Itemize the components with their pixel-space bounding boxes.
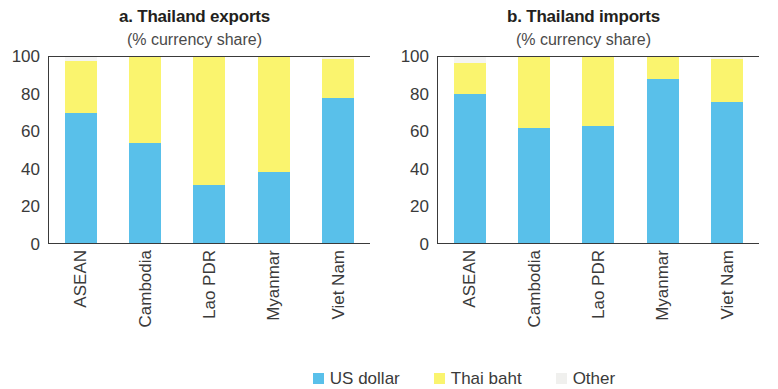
bar-segment-us-dollar [258,172,290,243]
x-axis-tick-slot: Viet Nam [696,246,757,351]
bar-segment-thai-baht [129,57,161,143]
bar-segment-us-dollar [454,94,486,243]
bar-group [115,57,176,243]
y-axis-tick: 100 [401,48,429,65]
x-axis-tick-slot: Lao PDR [178,246,239,351]
bar-segment-us-dollar [711,102,743,243]
bar-group [307,57,368,243]
y-axis-tick: 20 [410,198,429,215]
y-axis-tick: 40 [21,160,40,177]
x-axis-tick-label: Myanmar [265,250,282,321]
legend-label: Other [573,370,616,387]
legend-label: US dollar [330,370,400,387]
x-axis-tick-slot: Viet Nam [307,246,368,351]
stacked-bar[interactable] [322,57,354,243]
bar-segment-thai-baht [193,57,225,185]
bar-segment-thai-baht [258,57,290,172]
panel-exports-y-axis: 100806040200 [0,56,46,244]
bar-segment-us-dollar [65,113,97,243]
legend-item[interactable]: Other [556,370,616,387]
legend-label: Thai baht [451,370,522,387]
y-axis-tick: 0 [31,236,40,253]
bar-segment-thai-baht [518,57,550,128]
panel-exports-plot: 100806040200 ASEANCambodiaLao PDRMyanmar… [0,56,389,356]
bar-segment-thai-baht [322,59,354,98]
legend-item[interactable]: US dollar [313,370,400,387]
bar-segment-us-dollar [322,98,354,243]
y-axis-tick: 40 [410,160,429,177]
panel-exports: a. Thailand exports (% currency share) 1… [0,0,389,352]
bar-group [51,57,112,243]
legend-swatch-icon [556,373,567,384]
panel-imports-plot: 100806040200 ASEANCambodiaLao PDRMyanmar… [389,56,778,356]
x-axis-tick-label: Lao PDR [589,250,606,319]
panel-imports: b. Thailand imports (% currency share) 1… [389,0,778,352]
x-axis-tick-label: Viet Nam [718,250,735,320]
panel-imports-x-axis: ASEANCambodiaLao PDRMyanmarViet Nam [437,246,759,351]
x-axis-tick-label: Cambodia [525,250,542,328]
x-axis-tick-label: Myanmar [654,250,671,321]
bar-segment-thai-baht [582,57,614,126]
legend-swatch-icon [313,373,324,384]
bar-segment-thai-baht [647,57,679,79]
legend-swatch-icon [434,373,445,384]
x-axis-tick-slot: Myanmar [243,246,304,351]
y-axis-tick: 60 [410,123,429,140]
stacked-bar[interactable] [518,57,550,243]
x-axis-tick-label: Cambodia [136,250,153,328]
x-axis-tick-slot: Myanmar [632,246,693,351]
x-axis-tick-slot: Cambodia [114,246,175,351]
stacked-bar[interactable] [193,57,225,243]
stacked-bar[interactable] [711,57,743,243]
panel-exports-title: a. Thailand exports [0,0,389,28]
panel-imports-title: b. Thailand imports [389,0,778,28]
panel-imports-y-axis: 100806040200 [389,56,435,244]
bar-group [568,57,629,243]
stacked-bar[interactable] [258,57,290,243]
x-axis-tick-slot: ASEAN [439,246,500,351]
bar-group [504,57,565,243]
y-axis-tick: 20 [21,198,40,215]
panel-exports-x-axis: ASEANCambodiaLao PDRMyanmarViet Nam [48,246,370,351]
bar-segment-us-dollar [582,126,614,243]
bar-group [243,57,304,243]
x-axis-tick-slot: ASEAN [50,246,111,351]
panel-exports-plot-area [48,56,370,244]
y-axis-tick: 60 [21,123,40,140]
y-axis-tick: 100 [12,48,40,65]
bar-segment-us-dollar [647,79,679,243]
bar-segment-us-dollar [193,185,225,243]
stacked-bar[interactable] [454,57,486,243]
stacked-bar[interactable] [65,57,97,243]
bar-segment-thai-baht [454,63,486,95]
y-axis-tick: 80 [21,85,40,102]
bar-segment-us-dollar [129,143,161,243]
x-axis-tick-label: ASEAN [72,250,89,308]
panel-container: a. Thailand exports (% currency share) 1… [0,0,778,352]
x-axis-tick-label: Viet Nam [329,250,346,320]
bar-group [179,57,240,243]
legend-item[interactable]: Thai baht [434,370,522,387]
panel-imports-plot-area [437,56,759,244]
bar-group [696,57,757,243]
bar-group [632,57,693,243]
y-axis-tick: 80 [410,85,429,102]
x-axis-tick-slot: Cambodia [503,246,564,351]
stacked-bar[interactable] [129,57,161,243]
panel-exports-subtitle: (% currency share) [0,28,389,52]
bar-segment-thai-baht [65,61,97,113]
stacked-bar[interactable] [582,57,614,243]
panel-imports-subtitle: (% currency share) [389,28,778,52]
bar-segment-us-dollar [518,128,550,243]
bar-group [440,57,501,243]
y-axis-tick: 0 [420,236,429,253]
x-axis-tick-label: Lao PDR [200,250,217,319]
stacked-bar-figure: a. Thailand exports (% currency share) 1… [0,0,778,389]
x-axis-tick-label: ASEAN [461,250,478,308]
x-axis-tick-slot: Lao PDR [567,246,628,351]
stacked-bar[interactable] [647,57,679,243]
bar-segment-thai-baht [711,59,743,102]
chart-legend: US dollarThai bahtOther [0,370,778,387]
